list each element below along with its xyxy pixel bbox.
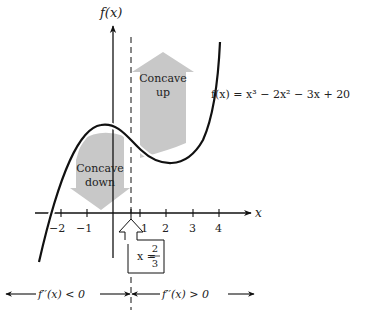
function-label: f(x) = x³ − 2x² − 3x + 20 bbox=[211, 88, 350, 101]
concave-down-line2: down bbox=[85, 176, 115, 189]
y-axis-label: f(x) bbox=[99, 5, 122, 20]
concave-up-line1: Concave bbox=[139, 72, 187, 85]
inflection-numerator: 2 bbox=[152, 243, 158, 254]
concave-up-line2: up bbox=[156, 86, 170, 99]
tick-label: −2 bbox=[49, 222, 65, 235]
tick-label: 3 bbox=[189, 222, 196, 235]
tick-label: 1 bbox=[141, 222, 148, 235]
tick-label: 2 bbox=[162, 222, 169, 235]
x-axis-label: x bbox=[255, 206, 262, 220]
interval-left-label: f′′(x) < 0 bbox=[37, 288, 85, 301]
concavity-diagram: f(x) x −2 −1 1 2 3 4 f(x) = x³ − 2x² − 3… bbox=[0, 0, 371, 314]
inflection-denominator: 3 bbox=[152, 258, 158, 269]
interval-right-label: f′′(x) > 0 bbox=[161, 288, 209, 301]
tick-label: 4 bbox=[215, 222, 222, 235]
concave-down-line1: Concave bbox=[76, 162, 124, 175]
tick-label: −1 bbox=[76, 222, 92, 235]
concave-up-arrow bbox=[132, 52, 194, 158]
